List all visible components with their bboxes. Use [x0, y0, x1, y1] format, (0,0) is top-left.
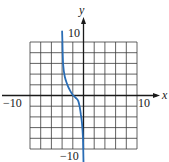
y-max-tick-label: 10 — [68, 27, 80, 39]
x-axis-label: x — [162, 89, 167, 101]
graph-canvas — [0, 0, 169, 162]
y-min-tick-label: −10 — [60, 150, 79, 162]
x-max-tick-label: 10 — [138, 97, 150, 109]
axes — [2, 17, 160, 149]
y-axis-label: y — [79, 4, 84, 16]
x-min-tick-label: −10 — [3, 97, 22, 109]
